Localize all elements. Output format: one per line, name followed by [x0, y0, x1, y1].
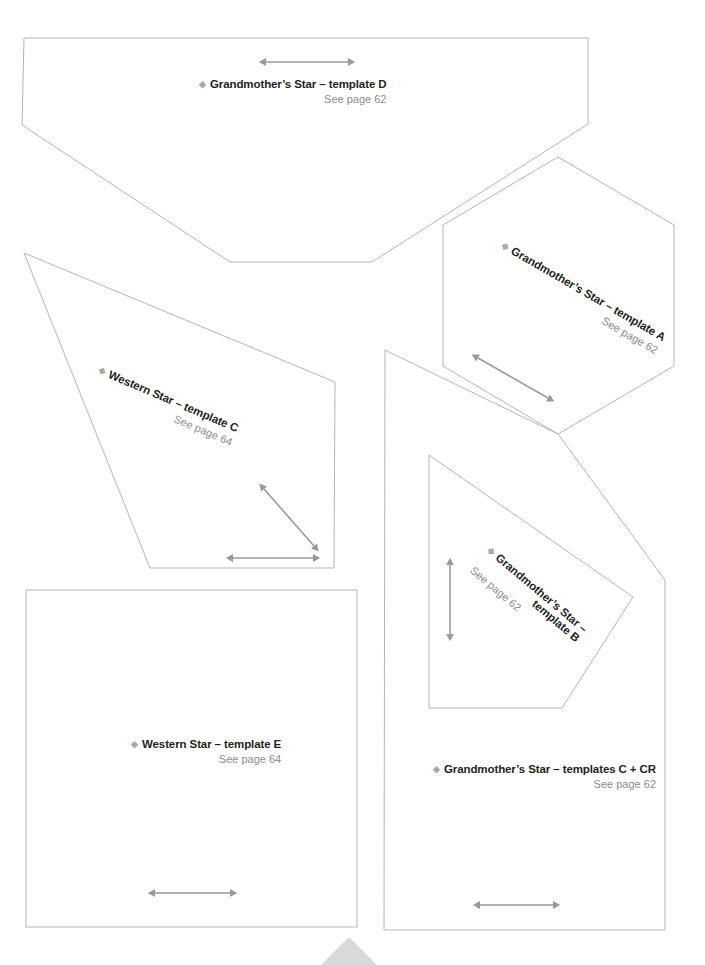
label-subtitle: See page 64 [131, 754, 281, 765]
label-grandmothers-star-template-d: ◆Grandmother’s Star – template D See pag… [199, 79, 386, 105]
label-title: ◆Grandmother’s Star – templates C + CR [433, 764, 656, 776]
label-western-star-template-e: ◆Western Star – template E See page 64 [131, 739, 281, 765]
label-title: ◆Grandmother’s Star – template D [199, 79, 386, 91]
diamond-bullet-icon: ◆ [199, 79, 206, 89]
page-bottom-triangle-icon [321, 937, 377, 965]
label-subtitle: See page 62 [433, 779, 656, 790]
label-title: ◆Western Star – template E [131, 739, 281, 751]
diamond-bullet-icon: ◆ [433, 764, 440, 774]
template-sheet-page: ◆Grandmother’s Star – template D See pag… [0, 0, 705, 965]
label-subtitle: See page 62 [199, 94, 386, 105]
diamond-bullet-icon: ◆ [131, 739, 138, 749]
template-shapes-canvas [0, 0, 705, 965]
label-grandmothers-star-templates-c-cr: ◆Grandmother’s Star – templates C + CR S… [433, 764, 656, 790]
